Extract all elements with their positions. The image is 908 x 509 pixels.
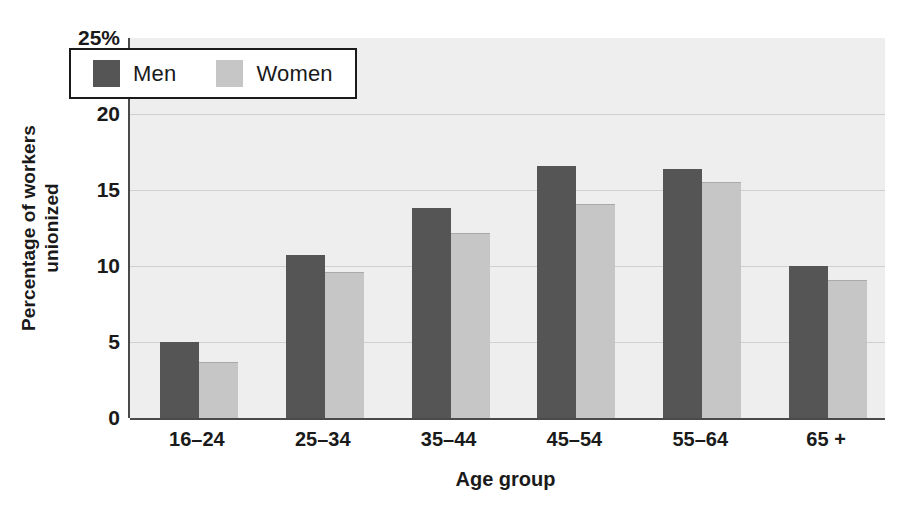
gridline	[130, 342, 885, 343]
legend-item: Men	[93, 60, 176, 87]
legend-label: Men	[133, 61, 176, 87]
bar-men	[412, 208, 451, 418]
legend-item: Women	[216, 60, 332, 87]
gridline	[130, 114, 885, 115]
gridline	[130, 190, 885, 191]
x-tick-label: 16–24	[138, 428, 256, 451]
bar-men	[789, 266, 828, 418]
bar-group	[537, 38, 615, 418]
bar-women	[451, 233, 490, 418]
bar-women	[576, 204, 615, 418]
x-tick-label: 45–54	[515, 428, 633, 451]
y-tick-label: 20	[60, 103, 120, 124]
y-tick-label: 15	[60, 179, 120, 200]
chart-figure: Percentage of workers unionized 25%20151…	[0, 0, 908, 509]
bar-men	[160, 342, 199, 418]
chart-legend: MenWomen	[69, 48, 357, 99]
y-axis-title-line1: Percentage of workers	[17, 125, 40, 331]
x-axis-title: Age group	[128, 468, 883, 491]
bar-group	[412, 38, 490, 418]
bar-men	[286, 255, 325, 418]
bar-group	[663, 38, 741, 418]
bar-women	[199, 362, 238, 418]
y-tick-label: 0	[60, 407, 120, 428]
bar-women	[702, 182, 741, 418]
bar-men	[537, 166, 576, 418]
x-tick-label: 35–44	[390, 428, 508, 451]
x-tick-label: 55–64	[641, 428, 759, 451]
bar-group	[789, 38, 867, 418]
gridline	[130, 266, 885, 267]
y-tick-label: 10	[60, 255, 120, 276]
legend-swatch-men	[93, 60, 120, 87]
x-tick-label: 25–34	[264, 428, 382, 451]
bar-women	[828, 280, 867, 418]
x-tick-label: 65 +	[767, 428, 885, 451]
y-tick-label: 25%	[60, 27, 120, 48]
y-tick-label: 5	[60, 331, 120, 352]
bar-men	[663, 169, 702, 418]
legend-label: Women	[256, 61, 332, 87]
legend-swatch-women	[216, 60, 243, 87]
bar-women	[325, 272, 364, 418]
